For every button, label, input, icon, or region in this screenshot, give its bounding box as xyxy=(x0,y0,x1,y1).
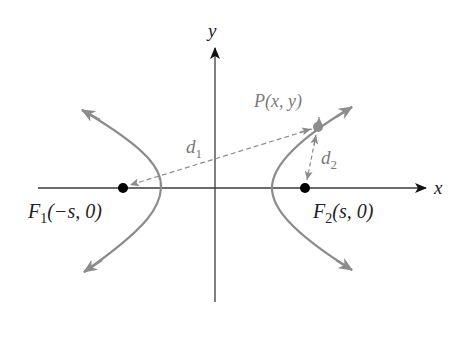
d1-label: d1 xyxy=(186,136,202,161)
hyperbola-diagram: y x P(x, y) d1 d2 F1(−s, 0) F2(s, 0) xyxy=(0,0,462,343)
focus-f2-label: F2(s, 0) xyxy=(312,200,374,226)
focus-f1-dot xyxy=(118,183,128,193)
d2-label: d2 xyxy=(321,147,337,172)
focus-f1-label: F1(−s, 0) xyxy=(27,200,102,226)
point-p-dot xyxy=(313,122,323,132)
point-p-label: P(x, y) xyxy=(253,91,302,112)
focus-f2-dot xyxy=(300,183,310,193)
x-axis-label: x xyxy=(433,177,443,198)
distance-d1-line xyxy=(130,129,312,185)
y-axis-label: y xyxy=(206,20,217,41)
